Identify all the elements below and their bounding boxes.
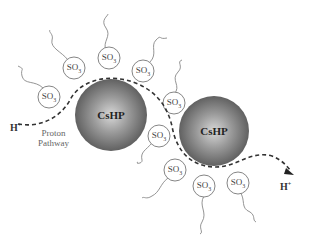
- so3-label: SO3: [152, 130, 167, 142]
- so3-label: SO3: [168, 164, 183, 176]
- so3-label: SO3: [136, 65, 151, 77]
- proton-in-label: H+: [10, 122, 21, 133]
- proton-out-label: H+: [280, 181, 291, 192]
- cshp-label-1: CsHP: [97, 109, 125, 121]
- diagram-graphics: [0, 0, 309, 242]
- so3-label: SO3: [102, 52, 117, 64]
- so3-label: SO3: [231, 177, 246, 189]
- so3-label: SO3: [167, 97, 182, 109]
- so3-label: SO3: [67, 62, 82, 74]
- proton-pathway-diagram: H+ ProtonPathway H+ CsHP CsHP SO3 SO3 SO…: [0, 0, 309, 242]
- so3-label: SO3: [42, 91, 57, 103]
- proton-pathway-label: ProtonPathway: [38, 128, 69, 148]
- cshp-label-2: CsHP: [200, 125, 228, 137]
- so3-label: SO3: [197, 180, 212, 192]
